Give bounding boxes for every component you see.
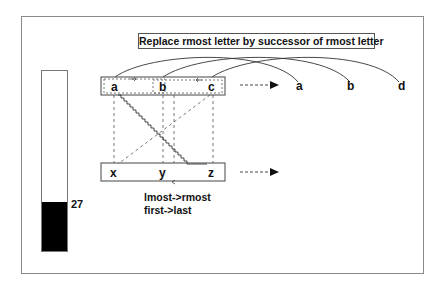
- caption-line-1: lmost->rmost: [144, 191, 211, 204]
- arc-b-b: [163, 57, 350, 82]
- target-letter-z: z: [208, 166, 214, 180]
- arc-c-d: [212, 57, 399, 82]
- modified-letter-b: b: [347, 79, 354, 93]
- bond-arrow-left-icon: [196, 78, 202, 82]
- correspondence-arcs: [115, 57, 399, 82]
- initial-letter-b: b: [159, 80, 166, 94]
- dashed-right-arrow-icon: [240, 81, 279, 89]
- modified-letter-d: d: [398, 79, 405, 93]
- diagonal-bridge: [118, 95, 210, 164]
- target-letter-x: x: [110, 166, 117, 180]
- vertical-bridges: [114, 95, 213, 163]
- caption-line-2: first->last: [144, 204, 211, 217]
- dashed-right-arrow-icon: [240, 168, 279, 176]
- modified-letter-a: a: [296, 79, 303, 93]
- arc-a-a: [115, 57, 298, 82]
- initial-letter-c: c: [208, 80, 215, 94]
- rule-caption: lmost->rmost first->last: [144, 191, 211, 217]
- workspace-diagram: a b c a b d x y z: [0, 0, 443, 288]
- bond-arrow-right-icon: [130, 77, 136, 81]
- target-letter-y: y: [159, 166, 166, 180]
- initial-letter-a: a: [111, 80, 118, 94]
